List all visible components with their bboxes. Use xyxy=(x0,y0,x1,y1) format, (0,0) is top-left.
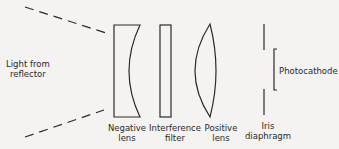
source-label-line2: reflector xyxy=(6,69,50,79)
photocathode-label: Photocathode xyxy=(279,66,338,76)
interference-filter-label-line1: Interference xyxy=(143,123,207,133)
source-label: Light from reflector xyxy=(6,59,50,79)
iris-diaphragm-label-line1: Iris xyxy=(242,121,294,131)
photocathode-bracket xyxy=(274,49,277,90)
upper-light-ray xyxy=(25,7,106,33)
source-label-line1: Light from xyxy=(6,59,50,69)
positive-lens-shape xyxy=(195,24,216,117)
positive-lens-label-line1: Positive xyxy=(199,123,243,133)
iris-diaphragm-label: Iris diaphragm xyxy=(242,121,294,141)
negative-lens-shape xyxy=(114,25,140,117)
positive-lens-label: Positive lens xyxy=(199,123,243,143)
iris-diaphragm-label-line2: diaphragm xyxy=(242,131,294,141)
interference-filter-shape xyxy=(160,25,171,117)
lower-light-ray xyxy=(25,110,104,137)
interference-filter-label-line2: filter xyxy=(143,133,207,143)
interference-filter-label: Interference filter xyxy=(143,123,207,143)
positive-lens-label-line2: lens xyxy=(199,133,243,143)
